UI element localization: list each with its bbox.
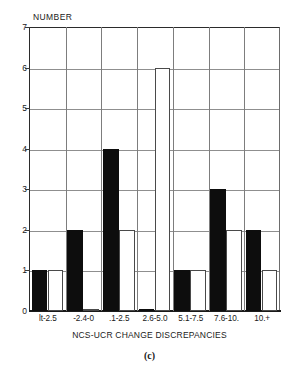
bar-filled (246, 230, 262, 311)
bar-open (262, 270, 278, 311)
bar-filled (174, 270, 190, 311)
bar-filled (103, 149, 119, 311)
bar-group (101, 27, 137, 311)
bar-group (30, 27, 66, 311)
bar-open (190, 270, 206, 311)
bar-group (173, 27, 209, 311)
bar-filled (139, 309, 155, 311)
bar-group (137, 27, 173, 311)
bar-filled (32, 270, 48, 311)
x-axis-title: NCS-UCR CHANGE DISCREPANCIES (0, 330, 299, 340)
bar-group (209, 27, 245, 311)
bar-open (226, 230, 242, 311)
y-axis-title: NUMBER (33, 12, 72, 22)
x-tick-label: 7.6-10. (214, 314, 239, 323)
bar-open (155, 68, 171, 311)
figure-caption: (c) (0, 350, 299, 361)
x-tick-label: 2.6-5.0 (143, 314, 168, 323)
x-tick-label: 5.1-7.5 (178, 314, 203, 323)
bar-filled (210, 189, 226, 311)
bar-groups (30, 27, 280, 311)
x-tick-label: lt-2.5 (39, 314, 57, 323)
x-tick-label: 10.+ (254, 314, 270, 323)
bar-open (119, 230, 135, 311)
x-tick-label: -2.4-0 (73, 314, 94, 323)
bar-group (66, 27, 102, 311)
bar-open (48, 270, 64, 311)
x-tick-label: .1-2.5 (109, 314, 129, 323)
bar-chart-figure: NUMBER 01234567 lt-2.5-2.4-0.1-2.52.6-5.… (0, 0, 299, 375)
bar-filled (67, 230, 83, 311)
bar-open (83, 309, 99, 311)
bar-group (244, 27, 280, 311)
y-tick-label-0: 0 (13, 306, 27, 316)
